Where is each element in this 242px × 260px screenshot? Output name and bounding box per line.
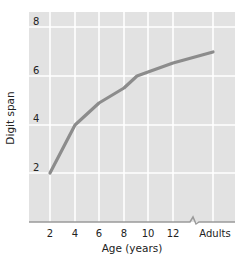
x-tick-12: 12 [167, 228, 180, 239]
x-tick-4: 4 [72, 228, 78, 239]
digit-span-chart: 8 6 4 2 2 4 6 8 10 12 Adults Age (years)… [0, 0, 242, 260]
y-tick-2: 2 [33, 162, 39, 173]
x-tick-adults: Adults [199, 228, 230, 239]
y-axis-title: Digit span [4, 91, 16, 144]
x-tick-6: 6 [96, 228, 102, 239]
x-axis-title: Age (years) [102, 242, 163, 254]
y-tick-4: 4 [33, 113, 39, 124]
y-tick-6: 6 [33, 65, 39, 76]
y-tick-8: 8 [33, 16, 39, 27]
x-tick-2: 2 [47, 228, 53, 239]
x-tick-10: 10 [142, 228, 155, 239]
plot-area [29, 12, 235, 222]
x-tick-8: 8 [121, 228, 127, 239]
